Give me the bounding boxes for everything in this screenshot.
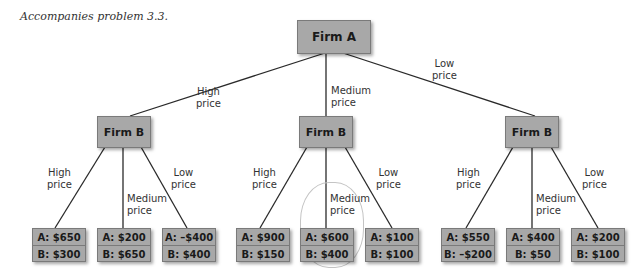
edge-label-low: Lowprice	[432, 58, 457, 82]
payoff-box: A: $200B: $650	[97, 228, 151, 262]
branch-label-high: Highprice	[47, 167, 72, 191]
payoff-a: A: –$400	[163, 229, 215, 246]
edge-label-high: Highprice	[196, 86, 221, 110]
branch-label-medium: Mediumprice	[536, 193, 576, 217]
branch-label-low: Lowprice	[171, 167, 196, 191]
payoff-a: A: $200	[98, 229, 150, 246]
payoff-a: A: $650	[33, 229, 85, 246]
branch-label-low: Lowprice	[376, 167, 401, 191]
firm-b-label: Firm B	[512, 126, 552, 139]
payoff-b: B: $100	[366, 246, 418, 262]
payoff-a: A: $600	[301, 229, 353, 246]
payoff-b: B: $400	[301, 246, 353, 262]
firm-a-label: Firm A	[312, 30, 356, 44]
firm-b-label: Firm B	[104, 126, 144, 139]
node-firm-a: Firm A	[297, 20, 371, 54]
payoff-box: A: $600B: $400	[300, 228, 354, 262]
payoff-a: A: $100	[366, 229, 418, 246]
payoff-box: A: $550B: –$200	[441, 228, 495, 262]
edge-label-medium: Mediumprice	[331, 85, 371, 109]
payoff-a: A: $900	[237, 229, 289, 246]
branch-label-medium: Mediumprice	[127, 193, 167, 217]
payoff-box: A: $650B: $300	[32, 228, 86, 262]
payoff-box: A: –$400B: $400	[162, 228, 216, 262]
node-firm-b-left: Firm B	[97, 116, 151, 148]
node-firm-b-right: Firm B	[505, 116, 559, 148]
payoff-b: B: $50	[507, 246, 559, 262]
payoff-b: B: $400	[163, 246, 215, 262]
payoff-b: B: $650	[98, 246, 150, 262]
branch-label-high: Highprice	[456, 167, 481, 191]
payoff-b: B: $300	[33, 246, 85, 262]
payoff-b: B: $150	[237, 246, 289, 262]
branch-label-high: Highprice	[252, 167, 277, 191]
firm-b-label: Firm B	[306, 126, 346, 139]
payoff-box: A: $400B: $50	[506, 228, 560, 262]
branch-label-medium: Mediumprice	[330, 193, 370, 217]
payoff-box: A: $200B: $100	[571, 228, 625, 262]
payoff-a: A: $200	[572, 229, 624, 246]
payoff-a: A: $400	[507, 229, 559, 246]
payoff-box: A: $100B: $100	[365, 228, 419, 262]
payoff-b: B: –$200	[442, 246, 494, 262]
branch-label-low: Lowprice	[582, 167, 607, 191]
payoff-b: B: $100	[572, 246, 624, 262]
payoff-a: A: $550	[442, 229, 494, 246]
payoff-box: A: $900B: $150	[236, 228, 290, 262]
node-firm-b-middle: Firm B	[299, 116, 353, 148]
